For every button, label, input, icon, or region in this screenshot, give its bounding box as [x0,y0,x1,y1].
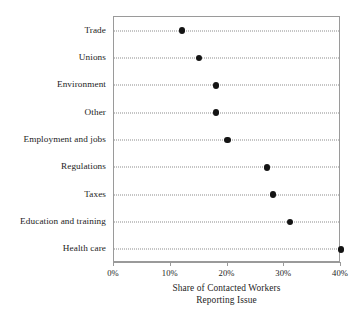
leader-line [114,112,339,113]
leader-line [114,222,339,223]
x-axis-tick-label: 10% [150,268,190,278]
y-axis-label: Environment [0,79,106,89]
y-axis-category-labels: TradeUnionsEnvironmentOtherEmployment an… [0,16,110,262]
data-point [213,109,220,116]
x-axis-tick-label: 40% [320,268,360,278]
leader-line [114,85,339,86]
data-point [179,27,186,34]
leader-line [114,58,339,59]
dot-plot-figure: TradeUnionsEnvironmentOtherEmployment an… [0,0,363,322]
x-axis-title-line-2: Reporting Issue [113,295,340,307]
x-axis-tick [170,262,171,266]
leader-line [114,194,339,195]
leader-line [114,249,339,250]
data-point [224,137,231,144]
y-axis-label: Regulations [0,161,106,171]
y-axis-label: Employment and jobs [0,134,106,144]
x-axis-line: 0%10%20%30%40% [113,262,340,263]
leader-line [114,30,339,31]
data-point [338,246,345,253]
data-point [270,191,277,198]
x-axis-tick [340,262,341,266]
x-axis-title: Share of Contacted Workers Reporting Iss… [113,283,340,306]
y-axis-label: Unions [0,52,106,62]
x-axis-tick [283,262,284,266]
y-axis-label: Taxes [0,189,106,199]
x-axis-tick-label: 20% [207,268,247,278]
x-axis-tick-label: 0% [93,268,133,278]
data-point [213,82,220,89]
y-axis-label: Education and training [0,216,106,226]
data-point [287,219,294,226]
y-axis-label: Trade [0,25,106,35]
data-point [196,55,203,62]
plot-panel [113,16,340,262]
x-axis-tick [113,262,114,266]
y-axis-label: Health care [0,243,106,253]
leader-line [114,167,339,168]
x-axis-tick [227,262,228,266]
x-axis-title-line-1: Share of Contacted Workers [113,283,340,295]
y-axis-label: Other [0,107,106,117]
data-point [264,164,271,171]
x-axis-tick-label: 30% [263,268,303,278]
